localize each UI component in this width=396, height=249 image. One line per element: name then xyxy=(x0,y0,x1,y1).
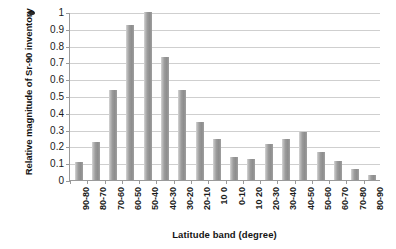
bar xyxy=(213,139,221,180)
x-tick-label: 80-90 xyxy=(376,187,385,227)
x-tick-mark xyxy=(174,180,175,184)
bar xyxy=(126,25,134,180)
x-tick-mark xyxy=(260,180,261,184)
y-tick-label: 0.5 xyxy=(50,92,64,102)
bar-slot xyxy=(87,13,104,180)
y-tick-label: 0.7 xyxy=(50,58,64,68)
x-tick-mark xyxy=(87,180,88,184)
x-tick-label: 0-10 xyxy=(238,187,247,227)
x-tick-label: 20-30 xyxy=(272,187,281,227)
bar-slot xyxy=(346,13,363,180)
x-tick-label: 30-20 xyxy=(186,187,195,227)
bar-slot xyxy=(70,13,87,180)
bar xyxy=(161,57,169,180)
bar xyxy=(334,161,342,180)
bar-slot xyxy=(208,13,225,180)
bar xyxy=(230,157,238,180)
x-tick-mark xyxy=(364,180,365,184)
x-axis-tick-labels: 90-8080-7070-6060-5050-4040-3030-2020-10… xyxy=(69,185,380,225)
x-tick-mark xyxy=(191,180,192,184)
bar-slot xyxy=(156,13,173,180)
x-tick-label: 20-10 xyxy=(203,187,212,227)
bar xyxy=(196,122,204,180)
bar xyxy=(247,159,255,180)
x-tick-label: 70-60 xyxy=(117,187,126,227)
bar-slot xyxy=(174,13,191,180)
bar-slot xyxy=(191,13,208,180)
bar-slot xyxy=(226,13,243,180)
x-tick-mark xyxy=(105,180,106,184)
y-tick-label: 0 xyxy=(58,176,64,186)
x-tick-mark xyxy=(346,180,347,184)
x-tick-label: 60-70 xyxy=(341,187,350,227)
bar xyxy=(299,132,307,180)
x-tick-mark xyxy=(329,180,330,184)
y-tick-label: 0.8 xyxy=(50,42,64,52)
bar-slot xyxy=(312,13,329,180)
x-tick-mark xyxy=(70,180,71,184)
bar-series xyxy=(70,13,380,180)
x-tick-label: 50-40 xyxy=(151,187,160,227)
bar-slot xyxy=(329,13,346,180)
bar-slot xyxy=(139,13,156,180)
y-axis-title: Relative magnitude of Sr-90 inventory xyxy=(23,0,35,187)
plot-area: 00.10.20.30.40.50.60.70.80.91 xyxy=(69,13,380,181)
x-tick-mark xyxy=(243,180,244,184)
x-tick-label: 40-50 xyxy=(307,187,316,227)
bar xyxy=(351,169,359,180)
x-tick-label: 50-60 xyxy=(324,187,333,227)
y-tick-label: 0.9 xyxy=(50,25,64,35)
y-tick-label: 0.2 xyxy=(50,142,64,152)
x-tick-label: 90-80 xyxy=(82,187,91,227)
y-tick-label: 0.4 xyxy=(50,109,64,119)
x-tick-mark xyxy=(226,180,227,184)
bar-slot xyxy=(364,13,381,180)
y-tick-label: 0.1 xyxy=(50,159,64,169)
bar-slot xyxy=(260,13,277,180)
x-tick-mark xyxy=(156,180,157,184)
bar xyxy=(178,90,186,180)
x-tick-label: 40-30 xyxy=(169,187,178,227)
bar xyxy=(144,12,152,180)
bar xyxy=(92,142,100,180)
bar xyxy=(317,152,325,180)
x-tick-label: 70-80 xyxy=(359,187,368,227)
bar-slot xyxy=(277,13,294,180)
x-tick-mark xyxy=(312,180,313,184)
x-tick-label: 10 0 xyxy=(220,187,229,227)
x-tick-label: 80-70 xyxy=(99,187,108,227)
x-tick-label: 60-50 xyxy=(134,187,143,227)
bar xyxy=(265,144,273,180)
bar-chart: Relative magnitude of Sr-90 inventory 00… xyxy=(0,0,396,249)
x-tick-mark xyxy=(277,180,278,184)
x-tick-mark xyxy=(295,180,296,184)
x-tick-label: 10 20 xyxy=(255,187,264,227)
x-tick-mark xyxy=(139,180,140,184)
bar-slot xyxy=(105,13,122,180)
bar-slot xyxy=(243,13,260,180)
bar xyxy=(282,139,290,180)
y-tick-label: 0.3 xyxy=(50,126,64,136)
bar xyxy=(368,175,376,180)
bar-slot xyxy=(295,13,312,180)
x-tick-label: 30-40 xyxy=(289,187,298,227)
y-tick-label: 1 xyxy=(58,8,64,18)
x-tick-mark xyxy=(122,180,123,184)
bar-slot xyxy=(122,13,139,180)
y-tick-label: 0.6 xyxy=(50,75,64,85)
bar xyxy=(75,162,83,180)
bar xyxy=(109,90,117,180)
x-tick-mark xyxy=(208,180,209,184)
x-axis-title: Latitude band (degree) xyxy=(69,229,380,240)
